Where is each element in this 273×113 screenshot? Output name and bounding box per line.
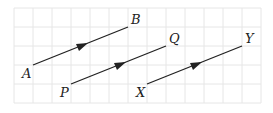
label-q: Q (169, 31, 180, 46)
label-y: Y (245, 31, 255, 46)
label-b: B (130, 12, 141, 27)
arrowhead-icon (76, 43, 88, 51)
label-x: X (135, 85, 146, 100)
arrowhead-icon (114, 62, 126, 70)
label-p: P (59, 85, 69, 100)
vector-diagram: A B P Q X Y (0, 0, 273, 113)
arrowhead-icon (190, 62, 202, 70)
label-a: A (21, 66, 31, 81)
